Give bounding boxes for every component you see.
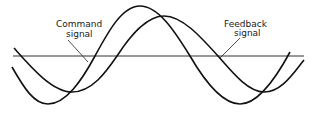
- feedback-leader-line: [220, 38, 240, 58]
- command-label-line2: signal: [66, 29, 93, 39]
- command-leader-line: [68, 40, 88, 62]
- command-label-line1: Command: [56, 19, 102, 29]
- feedback-label-line2: signal: [234, 28, 261, 38]
- signal-diagram: Command signal Feedback signal: [0, 0, 320, 116]
